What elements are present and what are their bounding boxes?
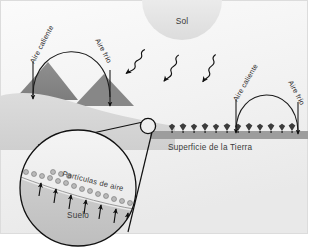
air-particle [40,174,45,179]
air-particle [96,192,101,197]
air-particle [56,179,61,184]
air-particle [104,194,109,199]
air-particle [88,189,93,194]
magnifier-focus-circle [140,118,155,133]
convection-diagram: Sol Aire caliente Aire frío Superficie d… [0,0,325,251]
air-particle [120,199,125,204]
diagram-canvas: Sol Aire caliente Aire frío Superficie d… [0,0,325,251]
air-particle [128,201,133,206]
air-particle [51,170,56,175]
air-particle [72,184,77,189]
air-particle [24,170,29,175]
sun-label: Sol [176,16,189,26]
surface-label: Superficie de la Tierra [168,143,252,152]
air-particle [80,187,85,192]
air-particle [32,172,37,177]
air-particle [64,181,69,186]
air-particle [48,176,53,181]
air-particle [112,197,117,202]
soil-label: Suelo [67,211,89,220]
surface-band [150,131,308,139]
